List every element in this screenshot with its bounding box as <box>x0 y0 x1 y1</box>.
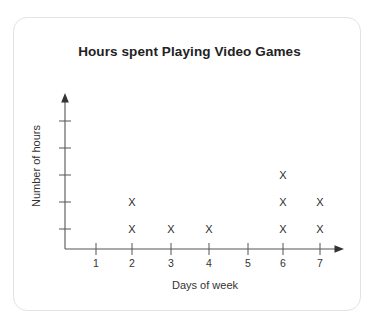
x-tick-label-4: 4 <box>199 257 219 269</box>
x-tick-label-1: 1 <box>86 257 106 269</box>
data-marker: X <box>276 224 290 235</box>
data-marker: X <box>313 224 327 235</box>
y-axis-arrowhead <box>61 93 69 103</box>
data-marker: X <box>313 197 327 208</box>
x-tick-label-7: 7 <box>310 257 330 269</box>
x-axis-arrowhead <box>335 245 345 253</box>
data-marker: X <box>164 224 178 235</box>
x-tick-label-2: 2 <box>122 257 142 269</box>
data-marker: X <box>276 197 290 208</box>
data-marker: X <box>202 224 216 235</box>
x-axis-title: Days of week <box>65 279 345 291</box>
dot-plot-figure: Number of hours Days of week 1 2 3 4 5 6… <box>0 0 379 331</box>
data-marker: X <box>276 170 290 181</box>
x-tick-label-5: 5 <box>238 257 258 269</box>
x-tick-label-3: 3 <box>161 257 181 269</box>
x-tick-label-6: 6 <box>273 257 293 269</box>
data-marker: X <box>125 224 139 235</box>
y-axis-title: Number of hours <box>30 106 42 226</box>
screenshot-root: Hours spent Playing Video Games <box>0 0 379 331</box>
data-marker: X <box>125 197 139 208</box>
